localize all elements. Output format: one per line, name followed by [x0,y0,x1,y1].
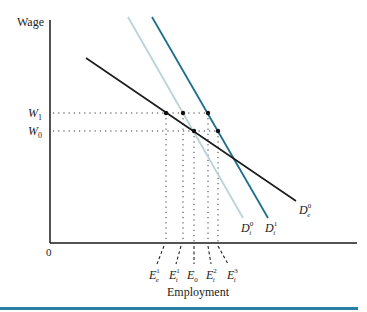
w0-label: W0 [28,124,42,140]
demand-curve-de0 [86,58,296,201]
e0-label: E0 [186,268,198,284]
employment-guides [166,113,218,243]
demand-curve-di0 [128,17,243,218]
di1-label: D1i [264,220,278,237]
ei1-label: E1i [168,267,180,284]
di0-label: D0i [240,220,254,237]
bottom-rule [0,307,358,310]
labor-demand-diagram: Wage 0 W1 W0 E1e E1i E0 E2i E3i Employme… [0,0,367,312]
x-axis-label: Employment [167,285,230,299]
ei3-label: E3i [226,267,238,284]
demand-curve-di1 [152,17,268,218]
y-axis-label: Wage [17,15,44,29]
ee1-label: E1e [148,267,160,284]
de0-label: D0e [298,202,312,219]
ei2-label: E2i [205,267,217,284]
origin-label: 0 [46,246,52,258]
tick-leaders [157,246,228,264]
w1-label: W1 [28,106,42,122]
